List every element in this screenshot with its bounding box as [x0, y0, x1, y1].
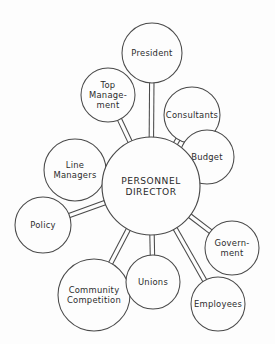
connector-personnel-director-to-community-competition — [107, 226, 131, 267]
node-label-personnel-director: DIRECTOR — [125, 187, 176, 197]
node-label-community-competition: Competition — [67, 295, 121, 305]
nodes-layer: PresidentTopManage-mentConsultantsBudget… — [15, 23, 259, 331]
node-label-community-competition: Community — [69, 285, 120, 295]
node-government[interactable]: Govern-ment — [205, 221, 259, 275]
node-label-government: ment — [221, 248, 244, 258]
node-community-competition[interactable]: CommunityCompetition — [58, 259, 130, 331]
node-circle-personnel-director — [102, 137, 200, 235]
node-label-policy: Policy — [30, 220, 56, 230]
connector-personnel-director-to-president — [149, 80, 154, 140]
node-label-top-management: Manage- — [89, 90, 127, 100]
node-label-consultants: Consultants — [166, 110, 218, 120]
node-label-line-managers: Managers — [53, 170, 96, 180]
node-policy[interactable]: Policy — [15, 197, 71, 253]
node-label-employees: Employees — [194, 299, 242, 309]
node-personnel-director[interactable]: PERSONNELDIRECTOR — [102, 137, 200, 235]
diagram-canvas: PresidentTopManage-mentConsultantsBudget… — [0, 0, 275, 344]
node-line-managers[interactable]: LineManagers — [44, 139, 106, 201]
node-label-president: President — [131, 48, 173, 58]
node-employees[interactable]: Employees — [191, 277, 245, 331]
node-president[interactable]: President — [122, 23, 182, 83]
connector-personnel-director-to-policy — [66, 200, 109, 219]
node-label-government: Govern- — [214, 238, 249, 248]
personnel-director-diagram: PresidentTopManage-mentConsultantsBudget… — [0, 0, 275, 344]
node-top-management[interactable]: TopManage-ment — [81, 68, 135, 122]
node-label-top-management: Top — [100, 80, 116, 90]
connector-personnel-director-to-unions — [150, 232, 155, 258]
node-label-budget: Budget — [191, 152, 223, 162]
node-label-personnel-director: PERSONNEL — [121, 176, 181, 186]
node-label-unions: Unions — [138, 277, 168, 287]
node-label-line-managers: Line — [66, 160, 84, 170]
node-unions[interactable]: Unions — [126, 255, 180, 309]
node-label-top-management: ment — [97, 100, 120, 110]
